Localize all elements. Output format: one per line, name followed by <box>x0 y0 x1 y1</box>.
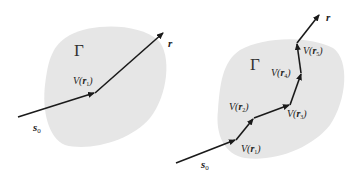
node-label-right-5: V(r5) <box>303 45 323 57</box>
right-diagram: Γ V(r1) V(r2) V(r3) V(r4) V(r5) r s0 <box>176 11 344 172</box>
outgoing-ray-right <box>297 15 319 43</box>
node-label-right-3: V(r3) <box>287 108 307 120</box>
node-label-right-2: V(r2) <box>229 101 249 113</box>
node-label-left-1: V(r1) <box>73 75 93 87</box>
incoming-label-right: s0 <box>200 158 209 172</box>
outgoing-label-right: r <box>326 11 331 23</box>
node-label-right-4: V(r4) <box>271 67 291 79</box>
region-label-left: Γ <box>74 41 84 60</box>
region-gamma-left <box>44 26 166 147</box>
node-label-right-1: V(r1) <box>241 143 261 155</box>
region-gamma-right <box>217 39 344 158</box>
incoming-ray-right <box>176 140 235 163</box>
incoming-label-left: s0 <box>32 121 41 135</box>
region-label-right: Γ <box>250 55 260 74</box>
outgoing-label-left: r <box>168 37 173 49</box>
left-diagram: Γ V(r1) r s0 <box>18 26 173 147</box>
scattering-diagram: Γ V(r1) r s0 Γ V(r1) V(r2) V(r3) V(r4) <box>0 0 352 180</box>
